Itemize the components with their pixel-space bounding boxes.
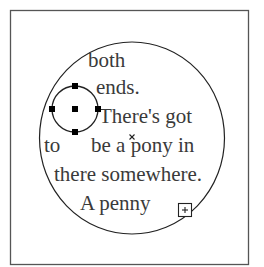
selection-handle-left-icon[interactable] (49, 106, 55, 112)
text-overflow-plus-icon[interactable] (179, 204, 192, 217)
text-line-5: there somewhere. (54, 162, 202, 186)
text-line-3: There's got (99, 104, 192, 128)
selection-handle-top-icon[interactable] (72, 83, 78, 89)
selection-handle-right-icon[interactable] (95, 106, 101, 112)
text-line-6: A penny (80, 191, 151, 215)
selection-handle-center-icon[interactable] (72, 106, 78, 112)
canvas: both ends. There's got to be a pony in t… (0, 0, 264, 267)
text-line-4b: be a pony in (91, 133, 195, 157)
text-line-4a: to (44, 133, 60, 157)
selection-handle-bottom-icon[interactable] (72, 129, 78, 135)
text-line-1: both (88, 48, 126, 72)
text-line-2: ends. (96, 75, 140, 99)
